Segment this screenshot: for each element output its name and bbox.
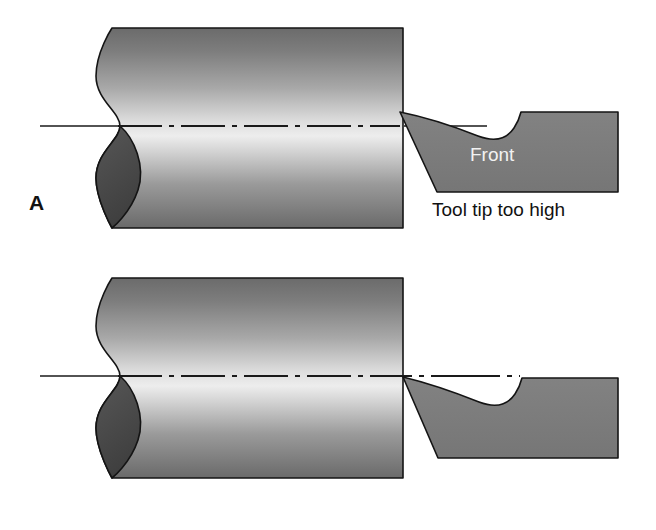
- panel-c-graphic: [0, 265, 656, 530]
- panel-a-graphic: [0, 0, 656, 265]
- diagram-panel-a: A Front Tool tip too high: [0, 0, 656, 265]
- tool-front-label-a: Front: [470, 145, 514, 164]
- lathe-cutting-tool: [403, 377, 618, 458]
- diagram-panel-c: C Front Correct: [0, 265, 656, 530]
- cylinder-workpiece: [96, 28, 403, 228]
- cylinder-body: [96, 28, 403, 228]
- cylinder-workpiece: [96, 278, 403, 478]
- technical-diagram-figure: A Front Tool tip too high: [0, 0, 656, 530]
- tool-body: [403, 377, 618, 458]
- panel-caption-a: Tool tip too high: [432, 200, 565, 219]
- panel-letter-a: A: [29, 192, 44, 213]
- cylinder-body: [96, 278, 403, 478]
